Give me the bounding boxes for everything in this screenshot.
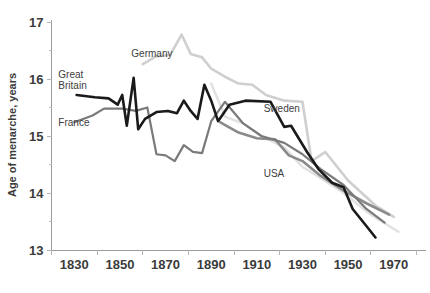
y-tick-label: 14: [29, 186, 44, 201]
series-line-germany: [143, 35, 394, 217]
series-layer: [74, 35, 398, 238]
x-tick-label: 1950: [334, 257, 363, 272]
y-tick-label: 13: [29, 243, 43, 258]
series-label-germany: Germany: [131, 48, 172, 59]
series-label-sweden: Sweden: [264, 103, 300, 114]
axes-layer: [47, 20, 426, 255]
y-tick-label: 15: [29, 129, 43, 144]
chart-container: 1314151617183018501870189019101930195019…: [0, 0, 430, 293]
tick-labels-layer: 1314151617183018501870189019101930195019…: [29, 15, 408, 273]
line-chart: 1314151617183018501870189019101930195019…: [0, 0, 430, 293]
x-tick-label: 1930: [288, 257, 317, 272]
x-tick-label: 1870: [151, 257, 180, 272]
y-tick-label: 17: [29, 15, 43, 30]
series-label-great-britain: Britain: [58, 80, 86, 91]
series-label-france: France: [58, 117, 90, 128]
series-label-usa: USA: [264, 168, 285, 179]
x-tick-label: 1850: [105, 257, 134, 272]
y-tick-label: 16: [29, 72, 43, 87]
series-line-france: [74, 102, 384, 223]
y-axis-title: Age of menarche, years: [6, 73, 18, 197]
x-tick-label: 1830: [60, 257, 89, 272]
y-axis-title-text: Age of menarche, years: [6, 73, 18, 197]
series-label-great-britain: Great: [58, 69, 83, 80]
x-tick-label: 1970: [379, 257, 408, 272]
series-line-sweden: [211, 84, 398, 232]
x-tick-label: 1890: [197, 257, 226, 272]
x-tick-label: 1910: [242, 257, 271, 272]
